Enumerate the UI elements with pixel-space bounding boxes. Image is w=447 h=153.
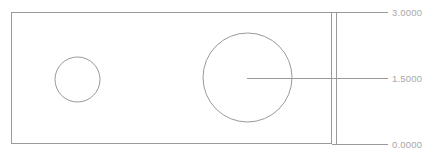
drawing-geometry bbox=[0, 0, 447, 153]
dimension-value-middle[interactable]: 1.5000 bbox=[392, 74, 422, 84]
dimension-value-top[interactable]: 3.0000 bbox=[392, 8, 422, 18]
dimension-value-bottom[interactable]: 0.0000 bbox=[392, 140, 422, 150]
large-hole-circle[interactable] bbox=[203, 33, 292, 122]
small-hole-circle[interactable] bbox=[55, 57, 100, 102]
cad-drawing-canvas: 3.0000 1.5000 0.0000 bbox=[0, 0, 447, 153]
